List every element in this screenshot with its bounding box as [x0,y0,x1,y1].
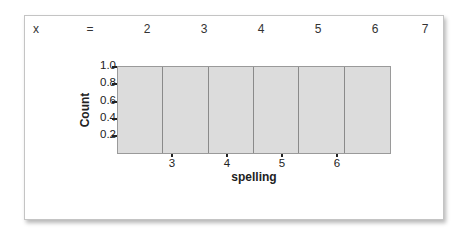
header-value: 6 [372,22,379,36]
y-axis-label: Count [78,93,92,128]
histogram-bar [299,67,344,153]
y-tick-mark [112,135,117,137]
y-tick-mark [112,101,117,103]
y-tick-mark [112,66,117,68]
x-tick-label: 3 [169,157,175,169]
histogram-bar [209,67,254,153]
header-value: 3 [201,22,208,36]
y-tick-label: 0.2 [100,128,116,140]
histogram-bar [163,67,208,153]
header-value: 7 [422,22,429,36]
y-tick-label: 0.6 [100,94,116,106]
x-tick-label: 5 [279,157,285,169]
y-tick-label: 0.8 [100,76,116,88]
y-tick-label: 0.4 [100,111,116,123]
y-tick-mark [112,118,117,120]
x-tick-label: 4 [224,157,230,169]
header-value: 2 [144,22,151,36]
histogram-bar [254,67,299,153]
header-x-label: x [33,22,39,36]
header-equals: = [86,22,93,36]
histogram-bar [118,67,163,153]
plot-area [117,66,391,154]
y-tick-mark [112,83,117,85]
header-value: 5 [315,22,322,36]
x-tick-label: 6 [334,157,340,169]
histogram-bar [345,67,390,153]
x-axis-label: spelling [231,170,276,184]
y-tick-label: 1.0 [100,59,116,71]
header-value: 4 [258,22,265,36]
